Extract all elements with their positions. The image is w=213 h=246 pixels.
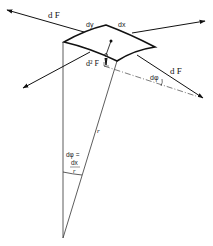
label-edge-dy: dy xyxy=(86,21,94,29)
label-force-bottom-right: d F xyxy=(170,66,182,76)
force-arrow-top-left xyxy=(7,10,84,32)
label-angle-small: dφ xyxy=(150,74,159,82)
force-arrow-bottom-left xyxy=(23,52,90,88)
label-angle-equation-lhs: dφ = xyxy=(66,151,80,159)
label-radius: r xyxy=(97,127,100,135)
tangent-line xyxy=(104,66,196,96)
force-arrow-top-right xyxy=(132,21,205,33)
force-arrow-bottom-right xyxy=(137,55,203,98)
angle-arc-small xyxy=(161,79,162,86)
membrane-force-diagram: d F dy dx d² F d F dφ r dφ = dx r xyxy=(0,0,213,246)
label-angle-equation-numerator: dx xyxy=(71,159,79,166)
normal-force-arrow xyxy=(105,58,107,65)
label-edge-dx: dx xyxy=(118,21,126,28)
label-force-top-left: d F xyxy=(48,10,60,20)
radius-line xyxy=(63,61,117,238)
label-angle-equation-denominator: r xyxy=(73,167,76,174)
normal-vector-tip xyxy=(110,40,113,43)
label-normal-force: d² F xyxy=(86,59,99,68)
